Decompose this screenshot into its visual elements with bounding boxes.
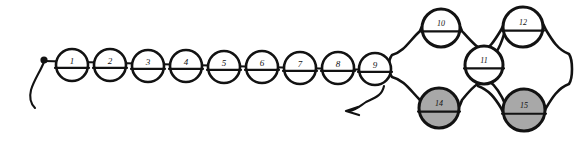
node-circle	[503, 89, 545, 131]
node-label: 14	[435, 99, 443, 108]
node-7[interactable]: 7	[283, 52, 317, 84]
node-label: 6	[260, 58, 265, 68]
node-1[interactable]: 1	[55, 49, 89, 81]
node-2[interactable]: 2	[93, 49, 127, 81]
node-9[interactable]: 9	[358, 53, 392, 85]
node-12[interactable]: 12	[502, 7, 544, 47]
chain-diagram: 1234567891011121415	[0, 0, 583, 143]
node-6[interactable]: 6	[245, 51, 279, 83]
node-11[interactable]: 11	[464, 46, 504, 84]
node-label: 5	[222, 58, 227, 68]
node-label: 7	[298, 59, 303, 69]
node-label: 12	[519, 18, 527, 27]
node-label: 9	[373, 60, 378, 70]
node-10[interactable]: 10	[421, 9, 461, 47]
node-15[interactable]: 15	[502, 89, 546, 131]
node-label: 4	[184, 57, 189, 67]
node-label: 15	[520, 101, 528, 110]
start-dot	[40, 56, 47, 63]
node-14[interactable]: 14	[418, 88, 460, 128]
diagram-canvas: 1234567891011121415	[0, 0, 583, 143]
node-label: 8	[336, 59, 341, 69]
node-label: 11	[480, 56, 487, 65]
node-circle	[503, 7, 543, 47]
node-4[interactable]: 4	[169, 50, 203, 82]
node-8[interactable]: 8	[321, 52, 355, 84]
node-3[interactable]: 3	[131, 50, 165, 82]
node-label: 3	[145, 57, 151, 67]
node-label: 10	[437, 19, 445, 28]
node-label: 2	[108, 56, 113, 66]
node-5[interactable]: 5	[207, 51, 241, 83]
node-label: 1	[70, 56, 75, 66]
node-circle	[419, 88, 459, 128]
